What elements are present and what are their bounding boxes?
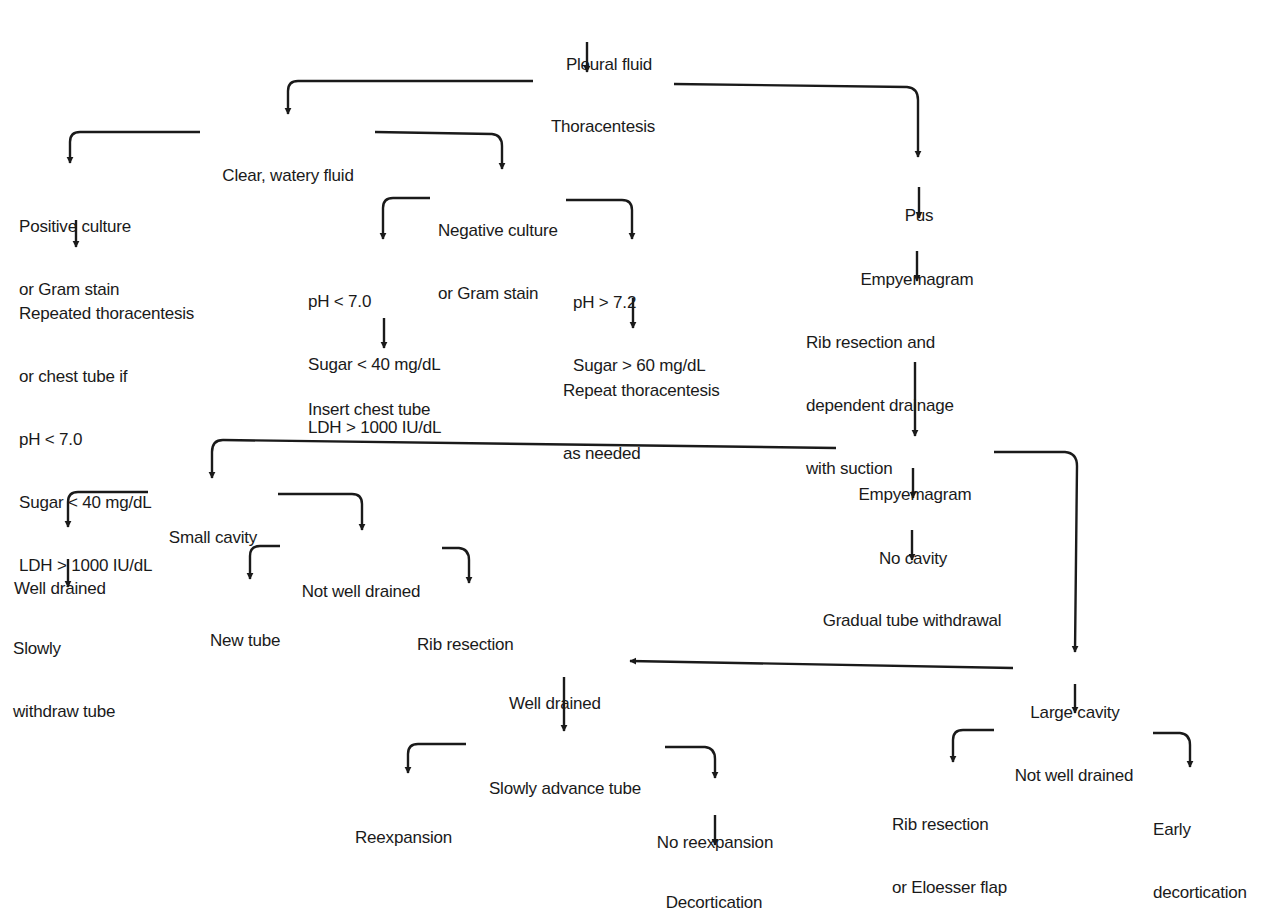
node-reexpansion: Reexpansion xyxy=(355,785,452,890)
edge-thoracentesis-to-pus xyxy=(674,84,918,157)
edge-empyemagram2-to-small xyxy=(212,440,836,478)
edge-negative-to-lowph xyxy=(383,198,430,239)
edge-notwell-large-to-early xyxy=(1153,733,1190,767)
edge-clear-to-positive xyxy=(70,132,200,163)
edge-notwell-large-to-eloesser xyxy=(953,730,994,762)
edge-empyemagram2-to-large xyxy=(994,452,1077,652)
node-repeat-thoracentesis: Repeat thoracentesis as needed xyxy=(563,338,720,506)
node-small-cavity: Small cavity xyxy=(169,485,257,590)
node-new-tube: New tube xyxy=(210,588,280,693)
edge-notwell-to-ribresection xyxy=(442,548,469,583)
edge-advance-to-reexpansion xyxy=(408,744,466,773)
node-slowly-advance-tube: Slowly advance tube xyxy=(489,736,641,841)
node-gradual-tube-withdrawal: Gradual tube withdrawal xyxy=(823,568,1002,673)
edge-thoracentesis-to-clear xyxy=(288,81,533,114)
edge-negative-to-highph xyxy=(566,200,632,239)
node-rib-resection: Rib resection xyxy=(417,592,514,697)
node-insert-chest-tube: Insert chest tube xyxy=(308,357,430,462)
node-large-not-well-drained: Not well drained xyxy=(1015,723,1134,828)
edge-small-to-notwelldrained xyxy=(278,494,362,530)
node-thoracentesis: Thoracentesis xyxy=(551,74,655,179)
node-clear-watery-fluid: Clear, watery fluid xyxy=(222,123,353,228)
node-small-not-well-drained: Not well drained xyxy=(302,539,421,644)
node-slowly-withdraw-tube: Slowly withdraw tube xyxy=(13,596,115,764)
node-rib-resection-eloesser: Rib resection or Eloesser flap xyxy=(892,772,1007,912)
node-negative-culture: Negative culture or Gram stain xyxy=(438,178,558,346)
edge-advance-to-noreexpansion xyxy=(665,747,715,778)
node-early-decortication: Early decortication xyxy=(1153,777,1247,912)
node-decortication: Decortication xyxy=(666,850,763,912)
edge-clear-to-negative xyxy=(375,132,502,169)
